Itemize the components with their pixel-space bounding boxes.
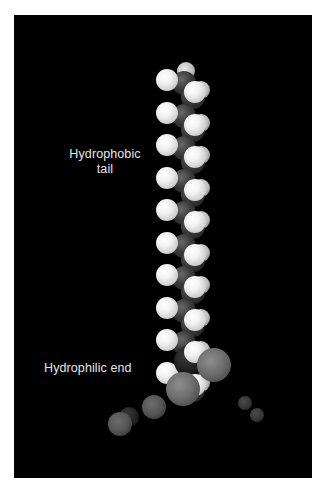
hydrogen-atom <box>184 179 206 201</box>
hydrogen-atom <box>184 276 206 298</box>
oxygen-atom <box>238 396 252 410</box>
oxygen-atom <box>108 412 132 436</box>
hydrophobic-label-line2: tail <box>53 162 157 177</box>
hydrogen-atom <box>156 167 178 189</box>
oxygen-atom <box>250 408 264 422</box>
oxygen-atom <box>142 395 166 419</box>
hydrogen-atom <box>184 244 206 266</box>
hydrogen-atom <box>156 264 178 286</box>
hydrogen-atom <box>184 81 206 103</box>
hydrogen-atom <box>156 102 178 124</box>
figure-frame: Hydrophobic tail Hydrophilic end <box>14 15 312 478</box>
hydrogen-atom <box>156 199 178 221</box>
hydrophobic-tail-label: Hydrophobic tail <box>53 147 157 177</box>
hydrogen-atom <box>156 232 178 254</box>
hydrogen-atom <box>156 297 178 319</box>
oxygen-atom <box>166 372 200 406</box>
hydrogen-atom <box>156 134 178 156</box>
hydrophilic-end-label: Hydrophilic end <box>44 361 164 376</box>
hydrophobic-label-line1: Hydrophobic <box>53 147 157 162</box>
hydrogen-atom <box>156 329 178 351</box>
hydrogen-atom <box>184 146 206 168</box>
hydrogen-atom <box>184 309 206 331</box>
hydrogen-atom <box>184 211 206 233</box>
oxygen-atom <box>197 348 231 382</box>
hydrogen-atom <box>184 114 206 136</box>
hydrogen-atom <box>156 69 178 91</box>
